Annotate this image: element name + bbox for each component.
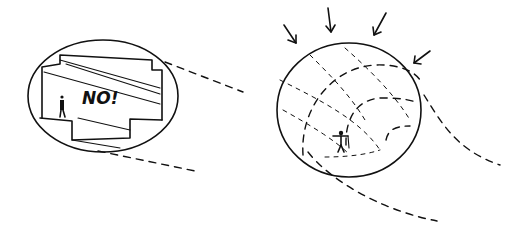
arrow-icon (326, 8, 335, 32)
dome-arc (346, 98, 418, 145)
grid-line (280, 80, 380, 150)
sketch-canvas: NO! (0, 0, 527, 239)
left-sketch: NO! (28, 40, 243, 171)
dome-arc (386, 126, 410, 140)
dome-arc (303, 65, 420, 155)
no-annotation: NO! (82, 88, 118, 108)
ceiling-line (60, 60, 160, 88)
arrow-icon (373, 13, 386, 35)
grid-line (345, 48, 410, 120)
room-floor (40, 118, 162, 140)
small-figure (60, 95, 65, 117)
grid-line (325, 150, 380, 157)
arrow-icon (284, 25, 296, 43)
arrow-icon (414, 51, 430, 64)
tail-line-bottom (98, 151, 195, 171)
floor-line (72, 140, 120, 148)
right-sketch (277, 8, 500, 221)
tail-curve-bottom (308, 152, 437, 221)
grid-line (310, 55, 365, 120)
tail-curve-right (424, 95, 500, 165)
right-ellipse (277, 43, 421, 177)
floor-diagonal (78, 118, 130, 130)
